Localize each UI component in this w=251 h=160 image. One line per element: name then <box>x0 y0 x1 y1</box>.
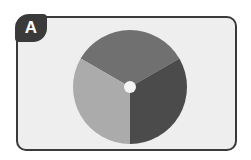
segmented-disc <box>70 30 190 148</box>
panel-label-badge: A <box>15 14 47 42</box>
disc-center-hole <box>124 81 136 93</box>
panel-label: A <box>25 18 37 38</box>
